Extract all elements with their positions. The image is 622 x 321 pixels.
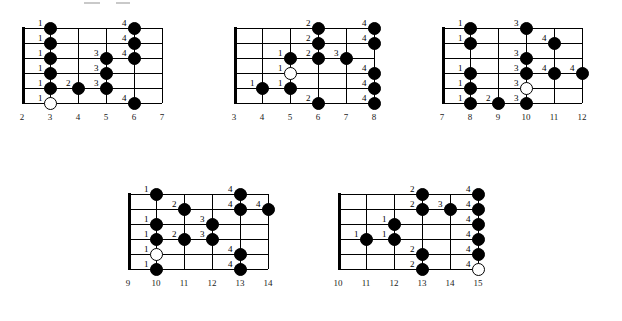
finger-number: 2 (304, 18, 311, 28)
note-marker (368, 97, 381, 110)
finger-number: 1 (248, 78, 255, 88)
note-marker (234, 188, 247, 201)
note-marker (150, 233, 163, 246)
fret-number-label: 9 (488, 112, 508, 123)
finger-number: 1 (456, 33, 463, 43)
note-marker (472, 233, 485, 246)
note-marker (234, 263, 247, 276)
note-marker (464, 22, 477, 35)
note-marker (492, 97, 505, 110)
note-marker (368, 22, 381, 35)
finger-number: 4 (226, 259, 233, 269)
finger-number: 2 (408, 184, 415, 194)
fret-number-label: 8 (460, 112, 480, 123)
finger-number: 1 (36, 78, 43, 88)
finger-number: 1 (380, 214, 387, 224)
note-marker (464, 67, 477, 80)
finger-number: 3 (512, 93, 519, 103)
finger-number: 4 (540, 63, 547, 73)
note-marker (284, 82, 297, 95)
finger-number: 4 (120, 48, 127, 58)
fret-number-label: 8 (364, 112, 384, 123)
note-marker (368, 82, 381, 95)
note-marker (234, 203, 247, 216)
note-marker (340, 52, 353, 65)
finger-number: 2 (170, 199, 177, 209)
note-marker (128, 37, 141, 50)
finger-number: 3 (512, 78, 519, 88)
note-marker (128, 97, 141, 110)
finger-number: 4 (226, 184, 233, 194)
fret-line (162, 28, 163, 103)
fret-number-label: 11 (174, 278, 194, 289)
finger-number: 4 (226, 199, 233, 209)
fret-line (22, 28, 23, 103)
fretboard-diagram: 11111233333444789101112 (442, 28, 610, 143)
finger-number: 3 (332, 48, 339, 58)
note-marker (284, 52, 297, 65)
note-marker (464, 37, 477, 50)
note-marker (416, 248, 429, 261)
note-marker (520, 67, 533, 80)
fret-number-label: 10 (516, 112, 536, 123)
fret-line (366, 194, 367, 269)
fret-line (338, 194, 339, 269)
fret-number-label: 4 (68, 112, 88, 123)
note-marker (464, 97, 477, 110)
note-marker (388, 218, 401, 231)
string-line (128, 209, 268, 210)
fret-line (346, 28, 347, 103)
note-marker (416, 188, 429, 201)
fret-number-label: 3 (40, 112, 60, 123)
note-marker (72, 82, 85, 95)
finger-number: 4 (120, 18, 127, 28)
fret-number-label: 12 (202, 278, 222, 289)
note-marker (206, 233, 219, 246)
finger-number: 4 (464, 214, 471, 224)
fret-line (442, 28, 443, 103)
finger-number: 1 (456, 78, 463, 88)
fret-number-label: 2 (12, 112, 32, 123)
string-line (234, 58, 374, 59)
finger-number: 1 (456, 93, 463, 103)
finger-number: 4 (540, 33, 547, 43)
finger-number: 4 (120, 33, 127, 43)
finger-number: 1 (276, 48, 283, 58)
fret-number-label: 5 (96, 112, 116, 123)
finger-number: 2 (484, 93, 491, 103)
note-marker (44, 52, 57, 65)
finger-number: 4 (464, 259, 471, 269)
finger-number: 4 (360, 63, 367, 73)
finger-number: 3 (512, 48, 519, 58)
fret-number-label: 7 (152, 112, 172, 123)
note-marker (464, 82, 477, 95)
note-marker (548, 67, 561, 80)
finger-number: 1 (36, 93, 43, 103)
finger-number: 4 (360, 93, 367, 103)
finger-number: 2 (304, 93, 311, 103)
note-marker (100, 52, 113, 65)
fretboard-diagram: 11122223444444101112131415 (338, 194, 506, 309)
finger-number: 3 (512, 18, 519, 28)
string-line (338, 224, 478, 225)
fret-number-label: 12 (572, 112, 592, 123)
finger-number: 4 (254, 199, 261, 209)
finger-number: 3 (92, 48, 99, 58)
note-marker (548, 37, 561, 50)
finger-number: 3 (436, 199, 443, 209)
note-marker (150, 218, 163, 231)
finger-number: 1 (276, 78, 283, 88)
note-marker (520, 22, 533, 35)
finger-number: 1 (36, 33, 43, 43)
note-marker (444, 203, 457, 216)
finger-number: 4 (360, 18, 367, 28)
fretboard-diagram: 11112222344444345678 (234, 28, 402, 143)
note-marker (44, 67, 57, 80)
fret-number-label: 11 (544, 112, 564, 123)
note-marker (44, 37, 57, 50)
finger-number: 1 (36, 18, 43, 28)
note-marker (262, 203, 275, 216)
note-marker (150, 188, 163, 201)
note-marker (312, 97, 325, 110)
finger-number: 4 (226, 244, 233, 254)
